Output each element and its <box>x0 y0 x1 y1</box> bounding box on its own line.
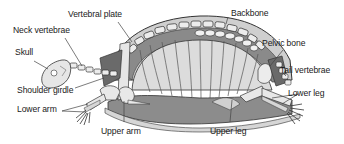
label-shoulder-girdle: Shoulder girdle <box>17 85 73 95</box>
leader-skull <box>34 61 48 69</box>
label-skull: Skull <box>15 47 33 57</box>
leader-lower-arm-a <box>62 104 88 111</box>
label-upper-leg: Upper leg <box>210 126 246 136</box>
leader-vertebral-plate <box>118 22 132 42</box>
skull <box>42 60 71 88</box>
label-lower-leg: Lower leg <box>288 88 324 98</box>
label-lower-arm: Lower arm <box>17 104 57 114</box>
turtle-skeleton-diagram: Vertebral plate Backbone Neck vertebrae … <box>0 0 344 144</box>
front-claws <box>76 110 90 125</box>
label-neck-vertebrae: Neck vertebrae <box>13 25 70 35</box>
leader-shoulder-girdle <box>75 78 104 88</box>
label-backbone: Backbone <box>231 8 268 18</box>
label-vertebral-plate: Vertebral plate <box>68 9 122 19</box>
label-pelvic-bone: Pelvic bone <box>262 38 305 48</box>
label-tail-vertebrae: Tail vertebrae <box>280 65 330 75</box>
label-upper-arm: Upper arm <box>101 126 141 136</box>
leader-lower-arm-b <box>62 111 86 112</box>
